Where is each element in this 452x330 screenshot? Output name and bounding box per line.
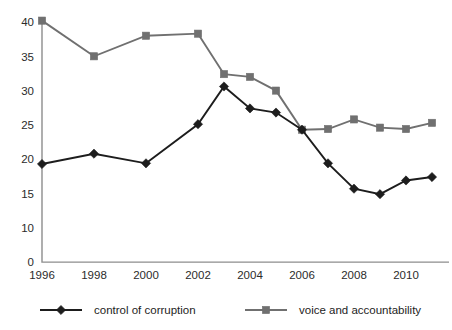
y-axis-tick-label: 35 (21, 51, 34, 63)
data-point-marker (272, 87, 279, 94)
x-axis-tick-label: 2002 (185, 269, 211, 281)
line-chart: 010152025303540 199619982000200220042006… (0, 0, 452, 330)
data-point-marker (376, 124, 383, 131)
data-point-marker (246, 73, 253, 80)
data-point-marker (401, 176, 410, 185)
series-line (42, 21, 432, 130)
data-point-marker (402, 125, 409, 132)
legend-label: voice and accountability (299, 304, 421, 316)
y-axis-tick-label: 40 (21, 16, 34, 28)
axis-spine (42, 22, 449, 262)
data-point-marker (428, 119, 435, 126)
chart-canvas: 010152025303540 199619982000200220042006… (0, 0, 452, 330)
series-voice-and-accountability (38, 17, 435, 133)
series-control-of-corruption (37, 82, 436, 199)
chart-legend: control of corruptionvoice and accountab… (40, 304, 421, 316)
data-point-marker (194, 30, 201, 37)
x-axis-tick-label: 1996 (29, 269, 55, 281)
y-axis-tick-label: 0 (28, 256, 34, 268)
legend-marker-diamond-icon (56, 305, 65, 314)
data-point-marker (427, 172, 436, 181)
legend-label: control of corruption (94, 304, 196, 316)
x-axis-tick-label: 2006 (289, 269, 315, 281)
data-point-marker (37, 159, 46, 168)
axis-lines (42, 22, 449, 262)
y-axis-tick-label: 25 (21, 119, 34, 131)
y-axis-tick-label: 15 (21, 188, 34, 200)
data-series (37, 17, 436, 199)
legend-item[interactable]: voice and accountability (245, 304, 421, 316)
legend-item[interactable]: control of corruption (40, 304, 196, 316)
data-point-marker (220, 71, 227, 78)
x-axis: 19961998200020022004200620082010 (29, 269, 419, 281)
data-point-marker (324, 125, 331, 132)
data-point-marker (90, 53, 97, 60)
data-point-marker (375, 190, 384, 199)
x-axis-tick-label: 2004 (237, 269, 263, 281)
legend-marker-square-icon (262, 306, 269, 313)
y-axis: 010152025303540 (21, 16, 34, 268)
x-axis-tick-label: 2010 (393, 269, 419, 281)
data-point-marker (89, 149, 98, 158)
series-line (42, 86, 432, 194)
x-axis-tick-label: 2008 (341, 269, 367, 281)
y-axis-tick-label: 30 (21, 85, 34, 97)
x-axis-tick-label: 1998 (81, 269, 107, 281)
y-axis-tick-label: 20 (21, 153, 34, 165)
data-point-marker (38, 17, 45, 24)
data-point-marker (142, 32, 149, 39)
y-axis-tick-label: 10 (21, 222, 34, 234)
data-point-marker (350, 116, 357, 123)
x-axis-tick-label: 2000 (133, 269, 159, 281)
